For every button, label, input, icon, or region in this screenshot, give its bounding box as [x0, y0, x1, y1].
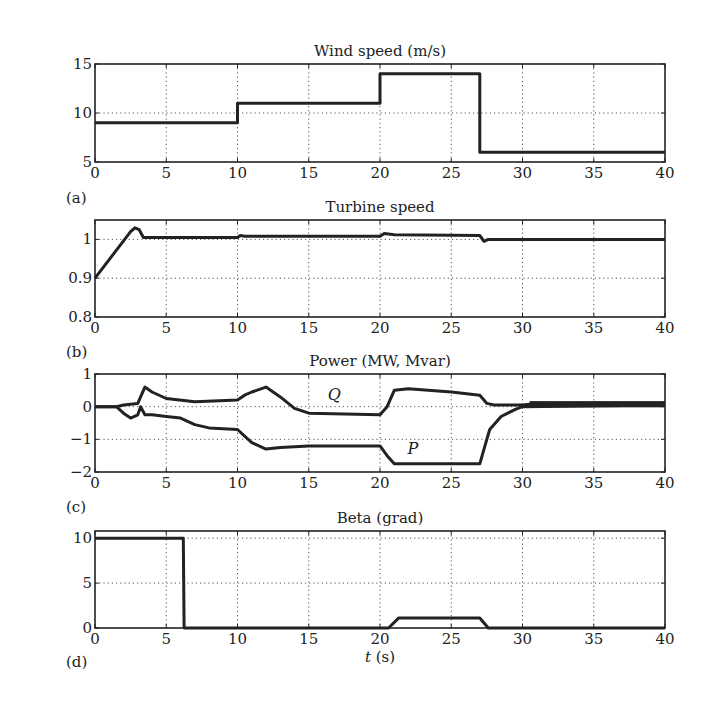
subplot-b: Turbine speed05101520253035400.80.91(b) [66, 198, 675, 361]
subplot-d: Beta (grad)05101520253035400510(d)t (s) [66, 509, 675, 671]
x-tick-label: 15 [299, 630, 318, 648]
y-tick-label: 10 [73, 104, 92, 122]
x-tick-label: 15 [299, 319, 318, 337]
y-tick-label: 1 [82, 230, 92, 248]
x-tick-label: 5 [161, 630, 171, 648]
x-tick-label: 20 [370, 319, 389, 337]
x-tick-label: 30 [513, 319, 532, 337]
series-annotation-q: Q [328, 385, 341, 404]
grid [95, 374, 665, 472]
series-annotation-p: P [406, 439, 418, 458]
subplot-c: Power (MW, Mvar)0510152025303540−2−101QP… [66, 352, 675, 516]
y-tick-label: −2 [70, 463, 92, 481]
grid [95, 531, 665, 628]
y-tick-label: 5 [82, 153, 92, 171]
y-tick-label: 10 [73, 529, 92, 547]
x-tick-label: 40 [655, 319, 674, 337]
x-tick-label: 40 [655, 474, 674, 492]
x-tick-label: 20 [370, 474, 389, 492]
x-tick-label: 35 [584, 164, 603, 182]
y-tick-label: −1 [70, 430, 92, 448]
x-tick-label: 35 [584, 319, 603, 337]
subplot-a: Wind speed (m/s)051015202530354051015(a) [66, 42, 675, 207]
x-tick-label: 25 [442, 319, 461, 337]
y-tick-label: 0 [82, 398, 92, 416]
figure: Wind speed (m/s)051015202530354051015(a)… [0, 0, 709, 709]
x-tick-label: 5 [161, 474, 171, 492]
x-tick-label: 30 [513, 474, 532, 492]
x-tick-label: 5 [161, 319, 171, 337]
x-tick-label: 10 [228, 319, 247, 337]
x-tick-label: 25 [442, 474, 461, 492]
x-tick-label: 10 [228, 474, 247, 492]
y-tick-label: 0.9 [68, 269, 92, 287]
x-tick-label: 35 [584, 474, 603, 492]
series-beta [95, 538, 665, 628]
x-tick-label: 10 [228, 164, 247, 182]
subplot-title: Beta (grad) [337, 509, 424, 527]
panel-label: (a) [66, 189, 87, 207]
y-tick-label: 0 [82, 619, 92, 637]
x-tick-label: 30 [513, 164, 532, 182]
x-tick-label: 40 [655, 164, 674, 182]
subplot-title: Power (MW, Mvar) [309, 352, 451, 370]
x-tick-label: 25 [442, 164, 461, 182]
panel-label: (b) [66, 343, 87, 361]
x-tick-label: 15 [299, 474, 318, 492]
x-tick-label: 35 [584, 630, 603, 648]
y-tick-label: 1 [82, 365, 92, 383]
x-tick-label: 10 [228, 630, 247, 648]
axes-frame [95, 531, 665, 628]
subplot-title: Wind speed (m/s) [314, 42, 446, 60]
axes-frame [95, 374, 665, 472]
x-tick-label: 25 [442, 630, 461, 648]
panel-label: (c) [66, 498, 86, 516]
x-axis-label: t (s) [365, 648, 395, 666]
oscillation-band [530, 401, 665, 407]
y-tick-label: 5 [82, 574, 92, 592]
x-tick-label: 30 [513, 630, 532, 648]
x-tick-label: 5 [161, 164, 171, 182]
y-tick-label: 15 [73, 55, 92, 73]
x-tick-label: 40 [655, 630, 674, 648]
y-tick-label: 0.8 [68, 308, 92, 326]
panel-label: (d) [66, 653, 87, 671]
subplot-title: Turbine speed [325, 198, 435, 216]
x-tick-label: 15 [299, 164, 318, 182]
x-tick-label: 20 [370, 164, 389, 182]
x-tick-label: 20 [370, 630, 389, 648]
